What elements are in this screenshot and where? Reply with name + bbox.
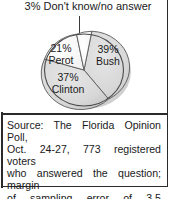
slice-label-clinton-value: 37% xyxy=(44,72,92,84)
chart-source-divider xyxy=(1,113,168,115)
source-line-4: of sampling error of 3.5 percentage xyxy=(7,192,161,199)
source-note: Source: The Florida Opinion Poll, Oct. 2… xyxy=(7,119,161,199)
source-line-3: who answered the question; margin xyxy=(7,167,161,191)
slice-label-clinton: 37% Clinton xyxy=(44,72,92,95)
slice-label-perot-name: Perot xyxy=(41,55,81,67)
pie-chart xyxy=(38,28,132,110)
source-line-2: Oct. 24-27, 773 registered voters xyxy=(7,143,161,167)
slice-label-perot: 21% Perot xyxy=(41,43,81,66)
pie-svg xyxy=(38,28,132,110)
slice-label-perot-value: 21% xyxy=(41,43,81,55)
poll-pie-chart-figure: 3% Don't know/no answer xyxy=(0,0,179,199)
figure-border-left-segment xyxy=(1,112,3,188)
slice-label-bush: 39% Bush xyxy=(88,44,128,67)
source-line-1: Source: The Florida Opinion Poll, xyxy=(7,119,161,143)
slice-label-bush-name: Bush xyxy=(88,56,128,68)
slice-label-bush-value: 39% xyxy=(88,44,128,56)
slice-label-clinton-name: Clinton xyxy=(44,84,92,96)
dont-know-callout-label: 3% Don't know/no answer xyxy=(20,0,156,13)
